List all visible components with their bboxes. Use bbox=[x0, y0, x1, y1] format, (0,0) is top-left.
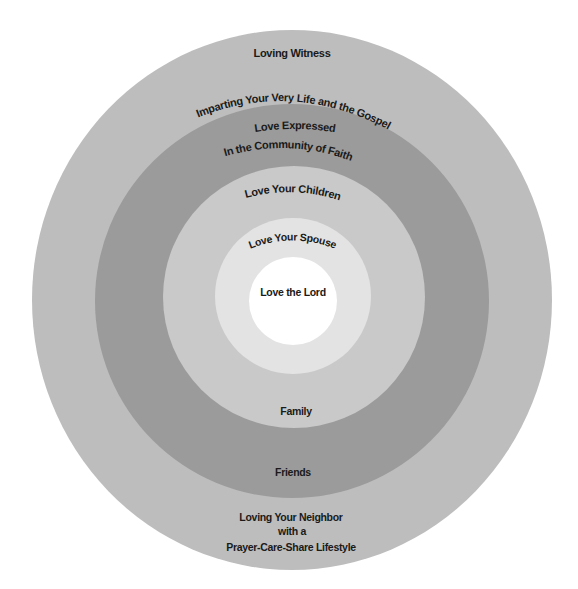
center-love-the-lord bbox=[249, 257, 337, 345]
label-love-the-lord: Love the Lord bbox=[260, 286, 326, 298]
label-friends: Friends bbox=[275, 466, 311, 478]
label-loving-your-neighbor: Loving Your Neighbor bbox=[239, 511, 342, 523]
label-loving-witness: Loving Witness bbox=[254, 47, 331, 59]
label-prayer-care-share: Prayer-Care-Share Lifestyle bbox=[226, 541, 356, 553]
concentric-love-diagram: Loving Witness Imparting Your Very Life … bbox=[0, 0, 578, 589]
label-family: Family bbox=[280, 405, 312, 417]
label-with-a: with a bbox=[277, 525, 306, 537]
